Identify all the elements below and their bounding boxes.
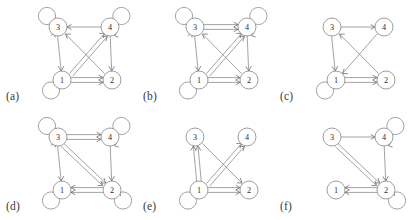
figure-panel-d: 3 4 1 2 (d)	[0, 110, 137, 220]
graph-node-4[interactable]: 4	[375, 128, 393, 146]
panel-caption-d: (d)	[6, 201, 20, 213]
edge-3-1	[332, 36, 336, 71]
node-label-1: 1	[334, 186, 338, 195]
edge-3-2-b	[61, 147, 102, 186]
panel-caption-b: (b)	[143, 91, 157, 103]
edge-3-1	[58, 36, 62, 71]
graph-node-2[interactable]: 2	[103, 181, 121, 199]
graph-node-1[interactable]: 1	[190, 181, 208, 199]
node-label-4: 4	[382, 133, 386, 142]
graph-node-4[interactable]: 4	[238, 128, 256, 146]
node-label-4: 4	[108, 133, 112, 142]
graph-node-3[interactable]: 3	[323, 18, 341, 36]
edge-4-2	[110, 146, 112, 181]
node-label-4: 4	[245, 133, 249, 142]
edge-3-2-b	[335, 147, 376, 186]
node-label-1: 1	[197, 186, 201, 195]
edge-3-1	[58, 146, 62, 181]
edge-3-2-a	[64, 144, 106, 183]
node-label-4: 4	[108, 23, 112, 32]
graph-node-2[interactable]: 2	[377, 181, 395, 199]
graph-node-3[interactable]: 3	[186, 18, 204, 36]
graph-node-1[interactable]: 1	[53, 181, 71, 199]
figure-container: 3 4 1 2 (a)	[0, 0, 410, 220]
graph-node-4[interactable]: 4	[375, 18, 393, 36]
node-label-2: 2	[384, 76, 388, 85]
edge-4-2	[384, 146, 386, 181]
graph-node-4[interactable]: 4	[238, 18, 256, 36]
node-label-3: 3	[193, 133, 197, 142]
node-label-2: 2	[247, 186, 251, 195]
node-label-2: 2	[247, 76, 251, 85]
edge-1-4-b	[73, 36, 108, 76]
figure-panel-b: 3 4 1 2 (b)	[137, 0, 274, 110]
panel-caption-c: (c)	[280, 91, 293, 103]
panel-caption-a: (a)	[6, 91, 19, 103]
graph-node-4[interactable]: 4	[101, 18, 119, 36]
graph-node-1[interactable]: 1	[53, 71, 71, 89]
graph-node-2[interactable]: 2	[240, 71, 258, 89]
edge-1-4-a	[70, 34, 105, 74]
node-label-2: 2	[110, 76, 114, 85]
graph-svg-f: 3 4 1 2	[300, 112, 410, 212]
edge-4-2	[247, 36, 249, 71]
edge-3-1	[195, 36, 199, 71]
node-label-3: 3	[330, 23, 334, 32]
graph-node-3[interactable]: 3	[49, 18, 67, 36]
graph-svg-a: 3 4 1 2	[26, 2, 136, 102]
panel-caption-e: (e)	[143, 201, 156, 213]
figure-panel-a: 3 4 1 2 (a)	[0, 0, 137, 110]
graph-node-2[interactable]: 2	[103, 71, 121, 89]
node-label-3: 3	[193, 23, 197, 32]
node-label-1: 1	[60, 76, 64, 85]
node-label-4: 4	[245, 23, 249, 32]
node-label-2: 2	[384, 186, 388, 195]
graph-svg-b: 3 4 1 2	[163, 2, 273, 102]
graph-node-4[interactable]: 4	[101, 128, 119, 146]
graph-node-1[interactable]: 1	[327, 181, 345, 199]
edge-4-2	[110, 36, 112, 71]
edge-2-3	[340, 34, 379, 74]
panel-caption-f: (f)	[280, 201, 292, 213]
node-label-4: 4	[382, 23, 386, 32]
graph-canvas-e: 3 4 1 2	[163, 112, 273, 212]
node-label-1: 1	[197, 76, 201, 85]
graph-canvas-d: 3 4 1 2	[26, 112, 136, 212]
graph-node-3[interactable]: 3	[323, 128, 341, 146]
figure-panel-c: 3 4 1 2 (c)	[274, 0, 410, 110]
graph-node-1[interactable]: 1	[327, 71, 345, 89]
graph-node-2[interactable]: 2	[240, 181, 258, 199]
node-label-1: 1	[334, 76, 338, 85]
node-label-3: 3	[56, 133, 60, 142]
graph-canvas-c: 3 4 1 2	[300, 2, 410, 102]
graph-node-3[interactable]: 3	[186, 128, 204, 146]
graph-canvas-a: 3 4 1 2	[26, 2, 136, 102]
node-label-3: 3	[330, 133, 334, 142]
graph-svg-c: 3 4 1 2	[300, 2, 410, 102]
graph-canvas-b: 3 4 1 2	[163, 2, 273, 102]
edge-3-2-a	[338, 144, 380, 183]
graph-svg-e: 3 4 1 2	[163, 112, 273, 212]
node-label-2: 2	[110, 186, 114, 195]
edge-1-3-b	[198, 146, 201, 181]
graph-node-1[interactable]: 1	[190, 71, 208, 89]
node-label-1: 1	[60, 186, 64, 195]
edge-1-4-a	[207, 34, 242, 74]
graph-node-3[interactable]: 3	[49, 128, 67, 146]
graph-canvas-f: 3 4 1 2	[300, 112, 410, 212]
graph-svg-d: 3 4 1 2	[26, 112, 136, 212]
figure-panel-e: 3 4 1 2 (e)	[137, 110, 274, 220]
node-label-3: 3	[56, 23, 60, 32]
edge-1-3-a	[193, 146, 196, 181]
edge-1-4-b	[210, 36, 245, 76]
figure-panel-f: 3 4 1 2 (f)	[274, 110, 410, 220]
graph-node-2[interactable]: 2	[377, 71, 395, 89]
